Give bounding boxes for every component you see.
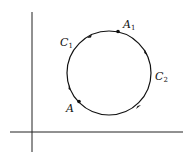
- label-c1: C1: [60, 36, 73, 50]
- point-a1: [116, 30, 120, 34]
- label-a1: A1: [122, 18, 135, 32]
- point-a: [77, 100, 81, 104]
- label-a: A: [65, 102, 74, 115]
- label-c2: C2: [155, 70, 168, 84]
- arrow-c2-lower: [136, 105, 141, 109]
- diagram-canvas: A1 C1 C2 A: [0, 0, 193, 154]
